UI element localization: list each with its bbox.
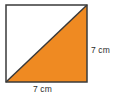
dimension-label-bottom: 7 cm xyxy=(33,84,52,94)
dimension-label-right: 7 cm xyxy=(91,45,110,55)
geometry-figure: 7 cm 7 cm xyxy=(0,0,120,96)
